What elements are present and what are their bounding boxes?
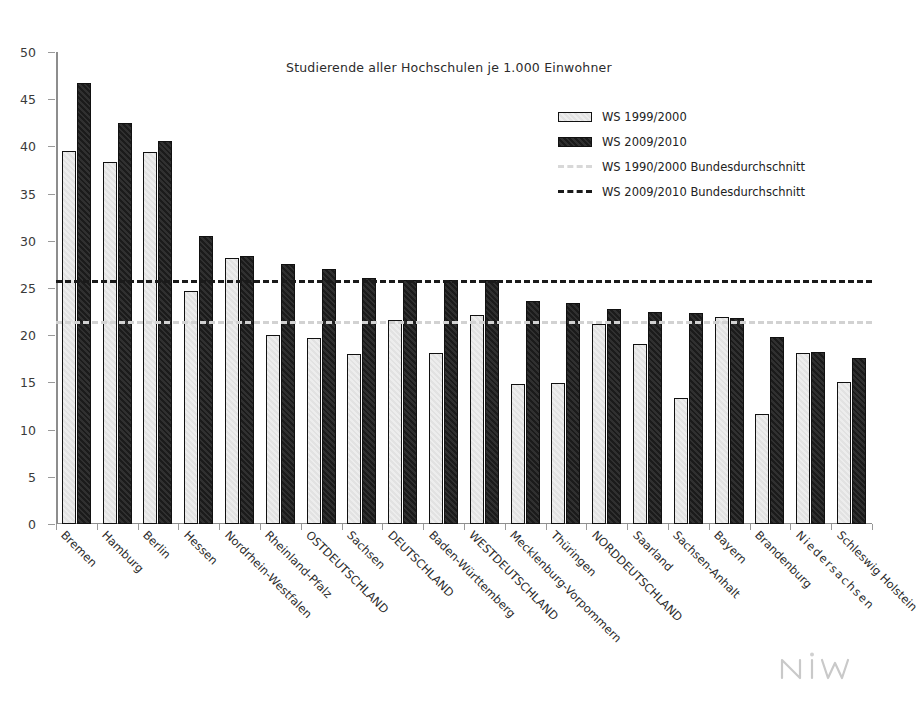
bar-ws-2009 bbox=[403, 280, 417, 524]
x-tick bbox=[872, 524, 873, 530]
y-tick: 25 bbox=[48, 288, 55, 289]
x-label-niedersachsen: Niedersachsen bbox=[793, 528, 878, 613]
y-tick-label: 45 bbox=[20, 92, 36, 107]
y-tick-label: 35 bbox=[20, 186, 36, 201]
y-tick: 50 bbox=[48, 52, 55, 53]
y-tick-label: 15 bbox=[20, 375, 36, 390]
bar-ws-1999 bbox=[551, 383, 565, 524]
bar-ws-2009 bbox=[607, 309, 621, 524]
y-tick: 10 bbox=[48, 430, 55, 431]
y-tick-label: 25 bbox=[20, 281, 36, 296]
bar-ws-1999 bbox=[470, 315, 484, 524]
legend-item: WS 2009/2010 Bundesdurchschnitt bbox=[558, 179, 805, 204]
bar-ws-2009 bbox=[444, 280, 458, 524]
avg-line-2009 bbox=[56, 280, 872, 283]
bar-group bbox=[260, 52, 301, 524]
x-label-berlin: Berlin bbox=[140, 528, 173, 561]
x-label-bayern: Bayern bbox=[711, 528, 750, 567]
bar-ws-1999 bbox=[184, 291, 198, 524]
legend-swatch-bar-dark bbox=[558, 137, 592, 147]
y-tick-label: 10 bbox=[20, 422, 36, 437]
bar-group bbox=[219, 52, 260, 524]
y-tick: 35 bbox=[48, 194, 55, 195]
bar-group bbox=[97, 52, 138, 524]
bar-group bbox=[342, 52, 383, 524]
y-tick: 20 bbox=[48, 335, 55, 336]
bar-group bbox=[464, 52, 505, 524]
bar-ws-2009 bbox=[566, 303, 580, 524]
x-axis-labels: BremenHamburgBerlinHessenNordrhein-Westf… bbox=[56, 528, 872, 668]
chart-legend: WS 1999/2000WS 2009/2010WS 1990/2000 Bun… bbox=[558, 104, 805, 204]
legend-label: WS 1999/2000 bbox=[602, 110, 687, 124]
bar-ws-1999 bbox=[429, 353, 443, 524]
bar-ws-2009 bbox=[322, 269, 336, 524]
bar-group bbox=[301, 52, 342, 524]
bar-ws-2009 bbox=[362, 278, 376, 524]
bar-ws-1999 bbox=[225, 258, 239, 524]
bar-ws-2009 bbox=[526, 301, 540, 524]
bar-ws-1999 bbox=[388, 320, 402, 524]
bar-ws-2009 bbox=[689, 313, 703, 524]
bar-ws-2009 bbox=[77, 83, 91, 524]
bar-ws-1999 bbox=[755, 414, 769, 524]
bar-ws-2009 bbox=[770, 337, 784, 524]
x-label-hessen: Hessen bbox=[181, 528, 221, 568]
legend-label: WS 2009/2010 Bundesdurchschnitt bbox=[602, 185, 805, 199]
y-tick-label: 20 bbox=[20, 328, 36, 343]
bar-ws-1999 bbox=[103, 162, 117, 524]
x-label-bremen: Bremen bbox=[58, 528, 100, 570]
bar-group bbox=[382, 52, 423, 524]
y-tick: 15 bbox=[48, 382, 55, 383]
y-tick-label: 5 bbox=[28, 469, 36, 484]
bar-ws-2009 bbox=[730, 318, 744, 524]
bar-group bbox=[56, 52, 97, 524]
y-tick-label: 50 bbox=[20, 45, 36, 60]
bar-ws-1999 bbox=[143, 152, 157, 524]
bar-ws-2009 bbox=[648, 312, 662, 524]
bar-group bbox=[423, 52, 464, 524]
y-tick-label: 40 bbox=[20, 139, 36, 154]
bar-ws-1999 bbox=[796, 353, 810, 524]
legend-swatch-dashed-dark bbox=[558, 190, 592, 193]
x-label-hamburg: Hamburg bbox=[99, 528, 147, 576]
y-tick: 30 bbox=[48, 241, 55, 242]
bar-ws-1999 bbox=[347, 354, 361, 524]
y-tick-label: 30 bbox=[20, 233, 36, 248]
bar-ws-2009 bbox=[281, 264, 295, 524]
legend-item: WS 1990/2000 Bundesdurchschnitt bbox=[558, 154, 805, 179]
bar-ws-1999 bbox=[837, 382, 851, 524]
legend-swatch-dashed-light bbox=[558, 165, 592, 168]
niw-logo bbox=[778, 650, 866, 688]
legend-label: WS 2009/2010 bbox=[602, 135, 687, 149]
bar-group bbox=[505, 52, 546, 524]
bar-group bbox=[138, 52, 179, 524]
bar-ws-2009 bbox=[811, 352, 825, 524]
bar-group bbox=[831, 52, 872, 524]
bar-ws-2009 bbox=[240, 256, 254, 524]
legend-item: WS 1999/2000 bbox=[558, 104, 805, 129]
bar-ws-1999 bbox=[266, 335, 280, 524]
legend-swatch-bar-light bbox=[558, 112, 592, 122]
y-tick-label: 0 bbox=[28, 517, 36, 532]
bar-ws-2009 bbox=[485, 280, 499, 524]
bar-ws-1999 bbox=[715, 317, 729, 524]
bar-ws-2009 bbox=[852, 358, 866, 524]
y-tick: 40 bbox=[48, 146, 55, 147]
avg-line-1999 bbox=[56, 321, 872, 324]
bar-ws-1999 bbox=[62, 151, 76, 524]
bar-ws-1999 bbox=[511, 384, 525, 524]
y-tick: 0 bbox=[48, 524, 55, 525]
legend-item: WS 2009/2010 bbox=[558, 129, 805, 154]
bar-ws-1999 bbox=[592, 324, 606, 524]
bar-ws-1999 bbox=[307, 338, 321, 524]
bar-group bbox=[178, 52, 219, 524]
y-tick: 45 bbox=[48, 99, 55, 100]
bar-ws-1999 bbox=[633, 344, 647, 524]
bar-ws-2009 bbox=[158, 141, 172, 524]
bar-ws-1999 bbox=[674, 398, 688, 524]
y-tick: 5 bbox=[48, 477, 55, 478]
legend-label: WS 1990/2000 Bundesdurchschnitt bbox=[602, 160, 805, 174]
